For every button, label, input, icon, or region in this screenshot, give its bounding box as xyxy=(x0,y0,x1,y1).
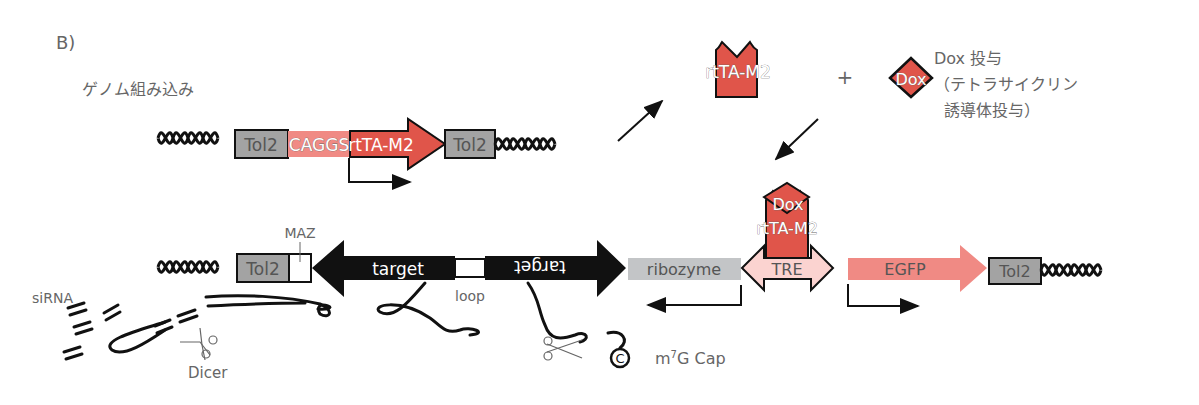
rttam2-label: rtTA-M2 xyxy=(348,135,414,155)
tol2-label: Tol2 xyxy=(998,262,1030,281)
panel-label: B) xyxy=(56,32,75,53)
tol2-label: Tol2 xyxy=(245,259,279,279)
rttam2-protein: rtTA-M2 xyxy=(705,42,771,97)
dicer-label: Dicer xyxy=(188,364,228,382)
loop-box xyxy=(455,259,485,277)
dicer-scissors-icon xyxy=(180,328,217,360)
rna-strand-3 xyxy=(528,283,586,342)
tetracycline-label: （テトラサイクリン xyxy=(934,75,1078,94)
tol2-label: Tol2 xyxy=(452,135,486,155)
dna-helix-left-2 xyxy=(158,262,218,272)
plus-sign: + xyxy=(837,65,854,89)
construct-2: Tol2 MAZ target loop target ribozyme Dox… xyxy=(158,183,1101,306)
dox-molecule: Dox xyxy=(890,58,932,97)
section-title: ゲノム組み込み xyxy=(82,80,194,99)
cleavage-scissors-icon xyxy=(544,337,582,360)
tol2-label: Tol2 xyxy=(243,135,277,155)
bound-dox-label: Dox xyxy=(772,195,803,214)
arrow-up-right xyxy=(618,101,662,141)
maz-label: MAZ xyxy=(284,225,315,241)
m7g-cap-label: m7G Cap xyxy=(655,349,726,368)
loop-label: loop xyxy=(455,288,485,304)
dna-helix-left-1 xyxy=(158,133,218,143)
target-left-label: target xyxy=(372,259,424,279)
cap-symbol: C xyxy=(615,351,624,366)
rna-strand-1 xyxy=(206,296,330,316)
caggs-label: CAGGS xyxy=(289,135,349,155)
arrow-down-left xyxy=(776,119,818,159)
bound-rttam2-label: rtTA-M2 xyxy=(756,219,818,238)
cap-tail xyxy=(608,332,624,348)
derivative-label: 誘導体投与） xyxy=(944,101,1040,120)
construct-1: Tol2 CAGGS rtTA-M2 Tol2 xyxy=(158,119,555,182)
transcription-arrow-left xyxy=(648,285,741,305)
dox-label: Dox xyxy=(895,70,926,89)
transcription-arrow-right xyxy=(848,284,918,306)
transcription-arrow-1 xyxy=(349,158,410,182)
sirna-label: siRNA xyxy=(32,290,73,306)
m7g-cap-icon: C xyxy=(611,349,629,367)
tre-label: TRE xyxy=(771,260,803,279)
dna-helix-right-2 xyxy=(1041,265,1101,275)
dox-administration-label: Dox 投与 xyxy=(934,49,1002,68)
dna-helix-right-1 xyxy=(495,139,555,149)
ribozyme-label: ribozyme xyxy=(647,260,721,279)
rttam2-protein-label: rtTA-M2 xyxy=(705,62,771,82)
target-right-label: target xyxy=(514,257,566,277)
rna-processing xyxy=(64,283,624,359)
diagram-canvas: B) ゲノム組み込み Tol2 CAGGS rtTA-M2 Tol2 rtTA-… xyxy=(0,0,1199,405)
egfp-label: EGFP xyxy=(884,260,926,279)
